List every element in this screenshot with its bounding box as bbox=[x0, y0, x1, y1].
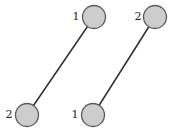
node-label: 1 bbox=[73, 10, 80, 23]
right-segment-node-top: 2 bbox=[135, 6, 167, 29]
node-circle bbox=[144, 6, 167, 29]
node-label: 2 bbox=[135, 10, 142, 23]
node-label: 1 bbox=[72, 108, 79, 121]
left-segment-node-top: 1 bbox=[73, 6, 106, 29]
node-circle bbox=[82, 104, 105, 127]
node-circle bbox=[83, 6, 106, 29]
node-label: 2 bbox=[6, 108, 13, 121]
right-segment-node-bottom: 1 bbox=[72, 104, 105, 127]
diagram-canvas: 1 2 2 1 bbox=[0, 0, 178, 139]
left-segment-edge bbox=[27, 17, 94, 115]
left-segment-node-bottom: 2 bbox=[6, 104, 39, 127]
right-segment-edge bbox=[93, 17, 155, 115]
node-circle bbox=[16, 104, 39, 127]
